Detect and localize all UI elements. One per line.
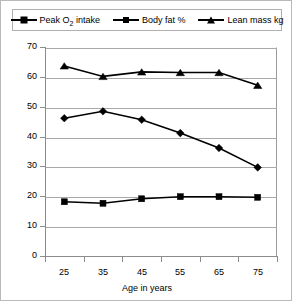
x-tick-label: 35 [88, 267, 118, 277]
y-tick-label: 50 [3, 102, 37, 111]
x-tick [45, 257, 46, 262]
y-axis-line [45, 47, 46, 257]
legend-item-body-fat: Body fat % [113, 15, 186, 25]
y-tick-label-wrap: 50 [1, 102, 37, 111]
y-tick-label: 10 [3, 221, 37, 230]
legend-marker-diamond-icon [11, 15, 37, 25]
data-point-marker [216, 194, 222, 200]
data-point-marker [61, 199, 67, 205]
x-tick [200, 257, 201, 262]
legend-item-lean-mass: Lean mass kg [198, 15, 283, 25]
x-tick [161, 257, 162, 262]
legend-marker-square-icon [113, 15, 139, 25]
data-point-marker [61, 114, 69, 122]
series-line-2 [64, 66, 257, 85]
legend-item-peak-o2-intake: Peak O2 intake [11, 15, 100, 25]
data-point-marker [177, 129, 185, 137]
data-point-marker [255, 194, 261, 200]
y-tick-label-wrap: 10 [1, 221, 37, 230]
x-tick-label: 75 [243, 267, 273, 277]
y-tick-label: 0 [3, 251, 37, 260]
chart-screenshot: Peak O2 intake Body fat % Lean mass kg A… [0, 0, 292, 301]
y-tick-label: 40 [3, 132, 37, 141]
x-tick [277, 257, 278, 262]
legend-label-lean-mass: Lean mass kg [227, 15, 283, 25]
y-tick [40, 47, 45, 48]
y-tick [40, 137, 45, 138]
x-tick [84, 257, 85, 262]
y-tick [40, 166, 45, 167]
x-tick-label: 45 [127, 267, 157, 277]
y-tick [40, 226, 45, 227]
data-point-marker [139, 196, 145, 202]
y-tick-label-wrap: 40 [1, 132, 37, 141]
x-axis-title: Age in years [1, 283, 292, 293]
x-tick [238, 257, 239, 262]
y-tick-label-wrap: 0 [1, 251, 37, 260]
legend-label-peak-o2-intake: Peak O2 intake [40, 15, 100, 25]
legend-marker-triangle-icon [198, 15, 224, 25]
data-point-marker [100, 200, 106, 206]
y-tick-label-wrap: 60 [1, 72, 37, 81]
y-tick-label-wrap: 20 [1, 191, 37, 200]
y-tick-label: 20 [3, 191, 37, 200]
y-tick-label-wrap: 70 [1, 42, 37, 51]
y-tick [40, 196, 45, 197]
y-tick-label: 70 [3, 42, 37, 51]
y-tick-label: 60 [3, 72, 37, 81]
data-point-marker [254, 164, 262, 172]
x-tick-label: 55 [165, 267, 195, 277]
series-line-0 [64, 111, 257, 167]
x-tick-label: 25 [49, 267, 79, 277]
y-tick [40, 77, 45, 78]
chart-legend: Peak O2 intake Body fat % Lean mass kg [12, 9, 282, 31]
y-tick [40, 107, 45, 108]
y-tick-label-wrap: 30 [1, 161, 37, 170]
legend-label-body-fat: Body fat % [142, 15, 186, 25]
plot-svg [45, 48, 277, 257]
data-point-marker [254, 82, 262, 88]
data-point-marker [177, 194, 183, 200]
x-tick-label: 65 [204, 267, 234, 277]
x-tick [122, 257, 123, 262]
plot-area [45, 47, 277, 256]
data-point-marker [215, 144, 223, 152]
data-point-marker [138, 116, 146, 124]
y-tick-label: 30 [3, 161, 37, 170]
